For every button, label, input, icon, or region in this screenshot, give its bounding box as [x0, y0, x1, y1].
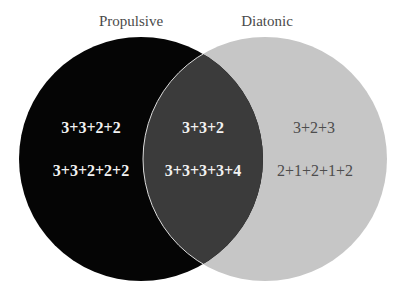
- propulsive-only-item-2: 3+3+2+2+2: [53, 162, 129, 179]
- intersection-item-1: 3+3+2: [182, 119, 224, 136]
- intersection-item-2: 3+3+3+3+4: [165, 162, 241, 179]
- diatonic-only-item-2: 2+1+2+1+2: [277, 162, 353, 179]
- set-title-propulsive: Propulsive: [99, 13, 164, 29]
- set-title-diatonic: Diatonic: [241, 13, 293, 29]
- propulsive-only-item-1: 3+3+2+2: [61, 119, 120, 136]
- venn-diagram: Propulsive Diatonic 3+3+2+2 3+3+2+2+2 3+…: [0, 0, 404, 299]
- diatonic-only-item-1: 3+2+3: [293, 119, 335, 136]
